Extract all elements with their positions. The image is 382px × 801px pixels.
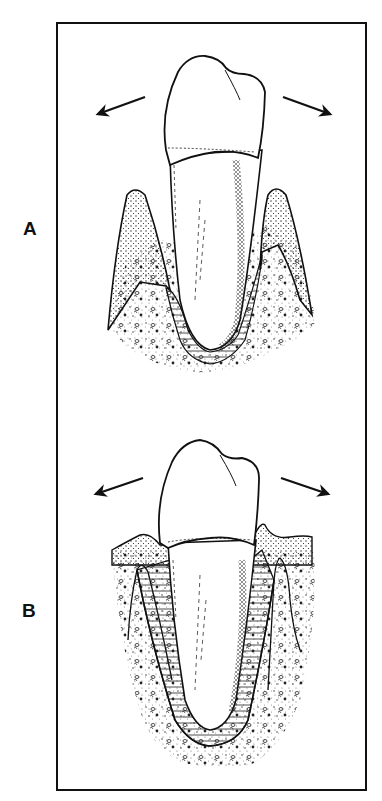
panel-a <box>98 56 330 372</box>
force-left-arrow <box>98 97 145 114</box>
tooth-crown <box>165 56 266 165</box>
panel-b <box>96 440 328 767</box>
tooth-crown <box>159 440 259 548</box>
dental-illustration <box>0 0 382 801</box>
force-right-arrow <box>281 478 328 494</box>
force-left-arrow <box>96 478 143 494</box>
force-right-arrow <box>283 97 330 114</box>
